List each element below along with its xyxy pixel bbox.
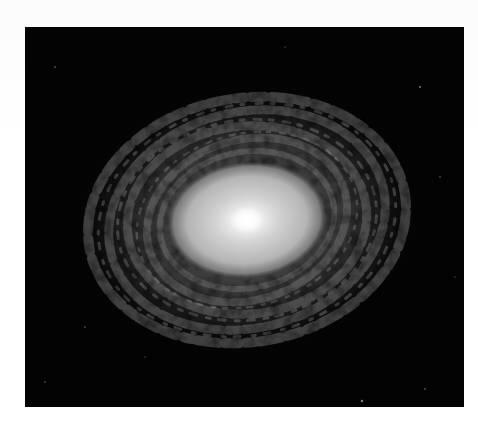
galaxy-image (25, 27, 464, 407)
image-frame (25, 27, 464, 407)
page (0, 0, 478, 440)
